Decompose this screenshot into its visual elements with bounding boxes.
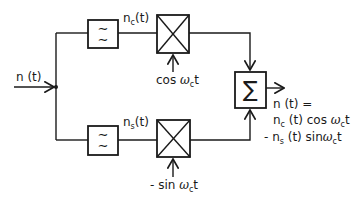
sigma-icon: ∑ [243, 77, 258, 102]
ns-label: ns(t) [123, 115, 149, 134]
junction-dot [54, 85, 58, 89]
svg-text:∼: ∼ [98, 32, 109, 47]
block-diagram: ∑ ∼ ∼ ∼ ∼ n (t) nc(t) ns(t) cos ωct - si… [0, 0, 364, 205]
input-label: n (t) [16, 70, 42, 84]
cos-carrier-label: cos ωct [156, 73, 199, 92]
nc-label: nc(t) [123, 11, 149, 30]
output-eq-line1: n (t) = [273, 97, 312, 111]
svg-text:∼: ∼ [98, 138, 109, 153]
sin-carrier-label: - sin ωct [150, 178, 198, 197]
output-eq-line3: - ns (t) sinωct [264, 130, 342, 149]
